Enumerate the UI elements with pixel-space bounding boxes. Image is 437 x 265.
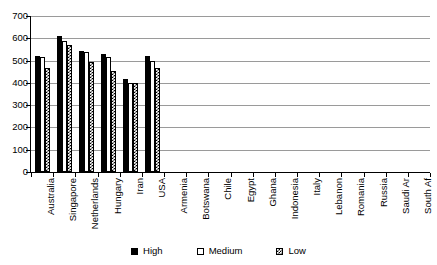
x-tick-mark [231, 173, 232, 177]
legend-entry[interactable]: Medium [197, 246, 243, 256]
y-tick-mark [26, 16, 31, 17]
bar-group [142, 16, 164, 172]
bar-group [297, 16, 319, 172]
x-tick-mark [98, 173, 99, 177]
y-tick-mark [26, 172, 31, 173]
x-tick-mark [297, 173, 298, 177]
bar-group [98, 16, 120, 172]
legend-label: High [143, 246, 163, 256]
bar-group [75, 16, 97, 172]
bar-group [53, 16, 75, 172]
hollow-white-swatch [197, 248, 204, 255]
legend-label: Low [288, 246, 305, 256]
x-tick-label: Netherlands [90, 178, 100, 229]
legend-entry[interactable]: High [131, 246, 163, 256]
x-tick-label: Lebanon [334, 178, 344, 215]
bar[interactable] [89, 62, 94, 172]
bar-chart: 7006005004003002001000 AustraliaSingapor… [0, 0, 437, 265]
bar[interactable] [111, 71, 116, 172]
plot-area [31, 16, 430, 172]
y-tick-mark [26, 38, 31, 39]
x-tick-mark [386, 173, 387, 177]
bar-group [186, 16, 208, 172]
x-tick-label: Egypt [246, 178, 256, 202]
x-tick-mark [319, 173, 320, 177]
bars-layer [31, 16, 430, 172]
y-tick-mark [26, 61, 31, 62]
bar-group [208, 16, 230, 172]
x-tick-mark [430, 173, 431, 177]
bar[interactable] [67, 45, 72, 172]
x-tick-label: Australia [46, 178, 56, 215]
bar-group [253, 16, 275, 172]
x-axis-ticks [0, 173, 437, 177]
x-tick-label: South Af [423, 178, 433, 214]
bar[interactable] [155, 68, 160, 172]
bar[interactable] [133, 83, 138, 172]
y-tick-mark [26, 105, 31, 106]
bar-group [386, 16, 408, 172]
bar-group [231, 16, 253, 172]
x-tick-mark [186, 173, 187, 177]
x-tick-mark [408, 173, 409, 177]
x-tick-label: Botswana [201, 178, 211, 220]
x-axis-labels: AustraliaSingaporeNetherlandsHungaryIran… [0, 178, 437, 240]
x-tick-mark [164, 173, 165, 177]
bar-group [341, 16, 363, 172]
bar-group [164, 16, 186, 172]
x-tick-mark [364, 173, 365, 177]
x-tick-label: Saudi Ar [401, 178, 411, 214]
x-tick-mark [341, 173, 342, 177]
x-tick-label: Armenia [179, 178, 189, 213]
y-tick-mark [26, 150, 31, 151]
solid-black-swatch [131, 248, 138, 255]
chart-legend: HighMediumLow [0, 243, 437, 259]
x-tick-label: Italy [312, 178, 322, 195]
x-tick-mark [253, 173, 254, 177]
x-tick-mark [31, 173, 32, 177]
x-tick-mark [53, 173, 54, 177]
bar[interactable] [45, 68, 50, 172]
x-tick-mark [75, 173, 76, 177]
y-tick-mark [26, 127, 31, 128]
x-tick-label: Chile [223, 178, 233, 200]
x-tick-mark [120, 173, 121, 177]
x-tick-label: Russia [379, 178, 389, 207]
x-tick-label: Romania [356, 178, 366, 216]
legend-entry[interactable]: Low [276, 246, 305, 256]
legend-label: Medium [209, 246, 243, 256]
x-tick-label: Singapore [68, 178, 78, 221]
bar-group [364, 16, 386, 172]
x-tick-label: Indonesia [290, 178, 300, 219]
x-tick-label: Ghana [268, 178, 278, 207]
x-tick-mark [142, 173, 143, 177]
y-tick-mark [26, 83, 31, 84]
bar-group [319, 16, 341, 172]
bar-group [408, 16, 430, 172]
x-tick-label: USA [157, 178, 167, 198]
x-tick-mark [275, 173, 276, 177]
checkered-swatch [276, 248, 283, 255]
x-tick-mark [208, 173, 209, 177]
bar-group [120, 16, 142, 172]
x-tick-label: Hungary [113, 178, 123, 214]
bar-group [275, 16, 297, 172]
bar-group [31, 16, 53, 172]
x-tick-label: Iran [135, 178, 145, 194]
